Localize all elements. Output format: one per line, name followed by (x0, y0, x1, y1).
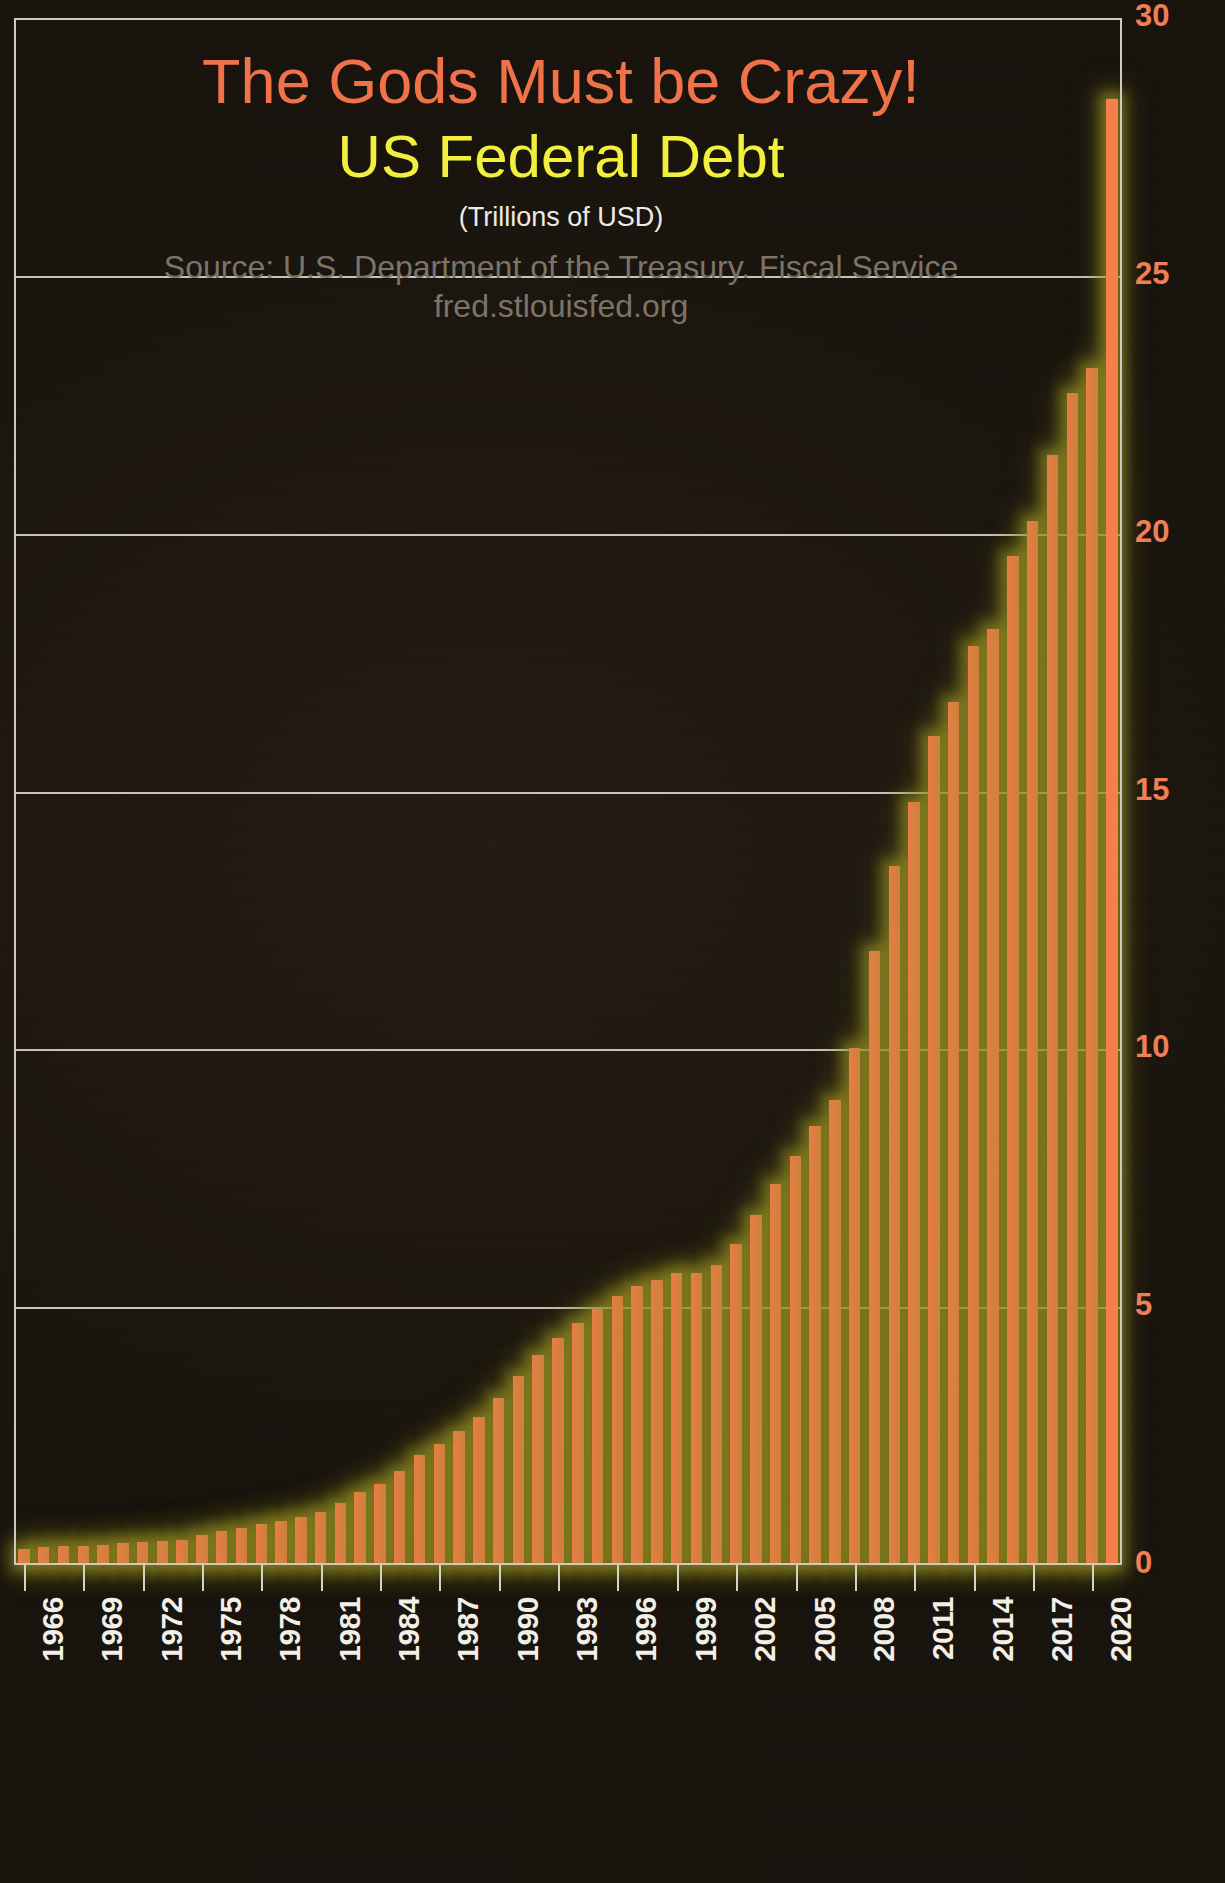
bar-cell (1003, 18, 1023, 1565)
bar-cell (528, 18, 548, 1565)
x-tick (24, 1565, 26, 1591)
x-axis-label-1987: 1987 (451, 1597, 485, 1662)
x-tick (914, 1565, 916, 1591)
bar-cell (509, 18, 529, 1565)
x-axis-label-1990: 1990 (511, 1597, 545, 1662)
bar (157, 1541, 168, 1565)
x-axis-label-2011: 2011 (926, 1597, 960, 1660)
bar-cell (232, 18, 252, 1565)
bar-cell (964, 18, 984, 1565)
bar-cell (14, 18, 34, 1565)
bar-cell (825, 18, 845, 1565)
bar (97, 1545, 108, 1565)
bar-cell (291, 18, 311, 1565)
x-axis-label-1999: 1999 (689, 1597, 723, 1662)
bar (631, 1286, 642, 1565)
bar-cell (489, 18, 509, 1565)
bar-cell (944, 18, 964, 1565)
bar (552, 1338, 563, 1565)
bar (414, 1455, 425, 1565)
bar (849, 1048, 860, 1565)
x-axis-label-2020: 2020 (1104, 1597, 1138, 1662)
bar-cell (113, 18, 133, 1565)
x-axis-label-2002: 2002 (748, 1597, 782, 1662)
bar (374, 1484, 385, 1565)
bar-cell (805, 18, 825, 1565)
y-axis-label-20: 20 (1135, 514, 1211, 550)
x-tick (499, 1565, 501, 1591)
x-tick (1092, 1565, 1094, 1591)
bar (711, 1265, 722, 1565)
bar (196, 1535, 207, 1565)
bar (434, 1444, 445, 1565)
x-tick (736, 1565, 738, 1591)
bar (612, 1296, 623, 1565)
x-tick (380, 1565, 382, 1591)
bar (354, 1492, 365, 1565)
bar-cell (251, 18, 271, 1565)
plot-area (14, 18, 1122, 1565)
bar-cell (54, 18, 74, 1565)
x-axis-label-2017: 2017 (1045, 1597, 1079, 1662)
bar (1047, 455, 1058, 1565)
bar (968, 646, 979, 1565)
bar-cell (746, 18, 766, 1565)
y-axis-label-25: 25 (1135, 256, 1211, 292)
bar-cell (607, 18, 627, 1565)
bar (137, 1542, 148, 1565)
bar (671, 1273, 682, 1565)
bar-cell (410, 18, 430, 1565)
x-tick (202, 1565, 204, 1591)
bar-cell (73, 18, 93, 1565)
bar-cell (172, 18, 192, 1565)
bar-cell (706, 18, 726, 1565)
bar (651, 1280, 662, 1565)
bar-series (14, 18, 1122, 1565)
bar (572, 1323, 583, 1565)
bar (532, 1355, 543, 1565)
chart-canvas: 051015202530 196619691972197519781981198… (0, 0, 1225, 1883)
bar-cell (983, 18, 1003, 1565)
x-axis-label-1996: 1996 (629, 1597, 663, 1662)
x-axis-label-1972: 1972 (155, 1597, 189, 1662)
bar (493, 1398, 504, 1565)
bar-cell (1023, 18, 1043, 1565)
bar (691, 1273, 702, 1565)
bar (453, 1431, 464, 1565)
bar (928, 736, 939, 1565)
bar (869, 951, 880, 1565)
bar-cell (904, 18, 924, 1565)
bar-cell (1043, 18, 1063, 1565)
bar-cell (1062, 18, 1082, 1565)
y-axis-label-30: 30 (1135, 0, 1211, 34)
bar-cell (667, 18, 687, 1565)
bar-cell (865, 18, 885, 1565)
bar-cell (311, 18, 331, 1565)
bar-cell (766, 18, 786, 1565)
x-tick (974, 1565, 976, 1591)
bar (730, 1244, 741, 1565)
bar (1007, 556, 1018, 1565)
bar-cell (884, 18, 904, 1565)
bar-cell (429, 18, 449, 1565)
bar-cell (627, 18, 647, 1565)
bar-cell (331, 18, 351, 1565)
x-axis-label-1993: 1993 (570, 1597, 604, 1662)
bar (236, 1528, 247, 1565)
bar-cell (568, 18, 588, 1565)
x-axis-label-2005: 2005 (808, 1597, 842, 1662)
bar (275, 1521, 286, 1565)
bar (770, 1184, 781, 1565)
bar (18, 1549, 29, 1566)
bar (315, 1512, 326, 1565)
x-tick (677, 1565, 679, 1591)
bar-cell (34, 18, 54, 1565)
bar-cell (192, 18, 212, 1565)
bar-cell (687, 18, 707, 1565)
y-axis-label-0: 0 (1135, 1545, 1211, 1581)
bar (117, 1543, 128, 1565)
bar-cell (785, 18, 805, 1565)
x-tick (143, 1565, 145, 1591)
bar-cell (133, 18, 153, 1565)
bar (948, 702, 959, 1565)
